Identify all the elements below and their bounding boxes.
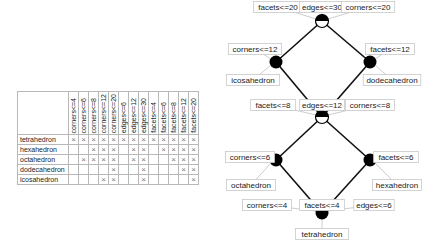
- concept-node[interactable]: [364, 56, 377, 69]
- lattice-label: corners<=6: [230, 153, 271, 162]
- lattice-label: edges<=12: [302, 101, 343, 110]
- lattice-label: corners<=4: [247, 201, 288, 210]
- lattice-label: hexahedron: [376, 181, 418, 190]
- lattice-edge: [322, 117, 370, 160]
- node-upper-half: [316, 15, 329, 21]
- lattice-label: corners<=20: [346, 3, 391, 12]
- lattice-label: facets<=20: [258, 3, 298, 12]
- lattice-label: facets<=12: [370, 45, 410, 54]
- lattice-edge: [276, 21, 322, 62]
- lattice-label: facets<=4: [304, 201, 340, 210]
- lattice-label: corners<=8: [350, 101, 391, 110]
- lattice-label: edges<=6: [356, 201, 392, 210]
- lattice-label: icosahedron: [231, 76, 275, 85]
- concept-node[interactable]: [270, 56, 283, 69]
- lattice-edge: [322, 21, 370, 62]
- lattice-label: facets<=6: [378, 153, 414, 162]
- lattice-label: octahedron: [231, 181, 271, 190]
- lattice-label: tetrahedron: [302, 230, 343, 239]
- lattice-label: facets<=8: [255, 101, 291, 110]
- lattice-edge: [276, 117, 322, 160]
- concept-lattice: facets<=20edges<=30corners<=20corners<=1…: [0, 0, 426, 241]
- lattice-label: corners<=12: [233, 45, 278, 54]
- lattice-label: dodecahedron: [366, 76, 417, 85]
- lattice-label: edges<=30: [302, 3, 343, 12]
